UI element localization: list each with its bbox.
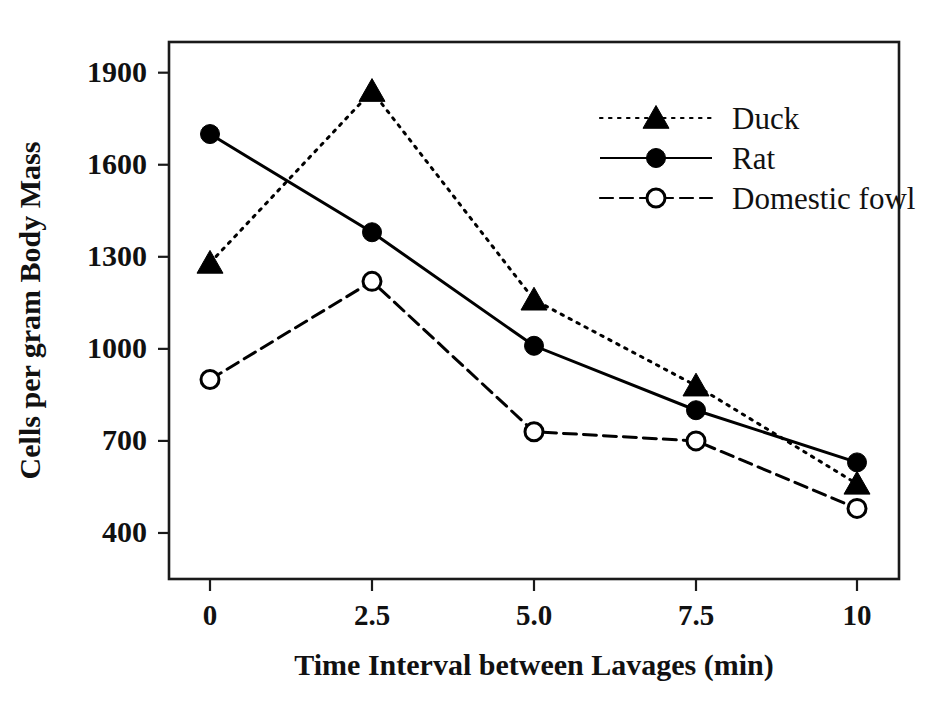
legend-label-1: Duck xyxy=(732,101,800,136)
x-axis-tick-label: 2.5 xyxy=(354,599,390,631)
series-domestic-fowl-line xyxy=(210,281,857,508)
series-domestic-fowl-marker xyxy=(687,432,705,450)
series-rat-marker xyxy=(363,223,382,242)
series-duck-marker xyxy=(521,287,547,310)
series-rat-marker xyxy=(687,401,706,420)
legend-2-marker xyxy=(647,149,666,168)
series-duck-marker xyxy=(683,373,709,396)
series-duck-marker xyxy=(844,471,870,494)
x-axis-tick-label: 0 xyxy=(203,599,218,631)
series-duck-marker xyxy=(359,79,385,102)
y-axis-tick-label: 1300 xyxy=(87,239,147,272)
chart-figure: 190016001300100070040002.55.07.510Time I… xyxy=(0,0,925,705)
series-domestic-fowl-marker xyxy=(201,371,219,389)
x-axis-tick-label: 10 xyxy=(843,599,872,631)
x-axis-title: Time Interval between Lavages (min) xyxy=(294,648,773,682)
series-domestic-fowl-marker xyxy=(525,423,543,441)
y-axis-tick-label: 1600 xyxy=(87,147,147,180)
series-domestic-fowl-marker xyxy=(848,499,866,517)
y-axis-tick-label: 1000 xyxy=(87,331,147,364)
y-axis-tick-label: 1900 xyxy=(87,55,147,88)
series-rat-marker xyxy=(201,125,220,144)
y-axis-tick-label: 400 xyxy=(102,515,147,548)
y-axis-tick-label: 700 xyxy=(102,423,147,456)
legend-1-marker xyxy=(643,106,669,129)
y-axis-title: Cells per gram Body Mass xyxy=(13,142,46,480)
legend-label-2: Rat xyxy=(732,141,775,176)
series-rat-marker xyxy=(848,453,867,472)
x-axis-tick-label: 5.0 xyxy=(516,599,552,631)
x-axis-tick-label: 7.5 xyxy=(678,599,714,631)
line-chart-canvas: 190016001300100070040002.55.07.510Time I… xyxy=(0,0,925,705)
series-rat-marker xyxy=(525,336,544,355)
series-domestic-fowl-marker xyxy=(363,272,381,290)
legend-3-marker xyxy=(647,189,665,207)
legend-label-3: Domestic fowl xyxy=(732,181,915,216)
